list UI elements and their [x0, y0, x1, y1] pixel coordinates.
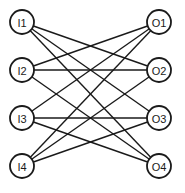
node-label: O3: [152, 113, 167, 125]
output-node-o2: O2: [147, 58, 171, 82]
output-node-o4: O4: [147, 154, 171, 178]
input-node-i1: I1: [10, 10, 34, 34]
node-label: I1: [17, 17, 26, 29]
input-node-i4: I4: [10, 154, 34, 178]
node-label: O2: [152, 65, 167, 77]
node-label: I4: [17, 161, 26, 173]
node-label: O1: [152, 17, 167, 29]
output-node-o1: O1: [147, 10, 171, 34]
edges-layer: [22, 22, 159, 166]
input-node-i2: I2: [10, 58, 34, 82]
output-node-o3: O3: [147, 106, 171, 130]
node-label: I2: [17, 65, 26, 77]
node-label: I3: [17, 113, 26, 125]
bipartite-diagram: I1I2I3I4O1O2O3O4: [0, 0, 185, 193]
node-label: O4: [152, 161, 167, 173]
input-node-i3: I3: [10, 106, 34, 130]
